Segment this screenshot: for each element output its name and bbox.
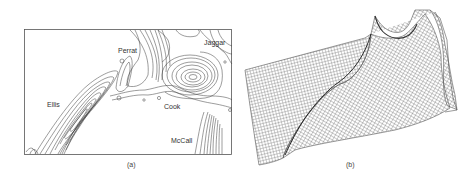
- wireframe-surface-graphic: [235, 0, 475, 181]
- place-label-ellis: Ellis: [47, 101, 60, 108]
- contour-map-graphic: [0, 0, 240, 181]
- place-label-cook: Cook: [164, 103, 180, 110]
- caption-b: (b): [346, 161, 355, 168]
- place-label-perrat: Perrat: [118, 47, 137, 54]
- place-label-jaggar: Jaggar: [204, 39, 225, 46]
- place-label-mccall: McCall: [171, 137, 192, 144]
- wireframe-surface-panel: (b): [235, 0, 475, 181]
- contour-map-panel: Perrat Jaggar Ellis Cook McCall (a): [0, 0, 240, 181]
- caption-a: (a): [127, 161, 136, 168]
